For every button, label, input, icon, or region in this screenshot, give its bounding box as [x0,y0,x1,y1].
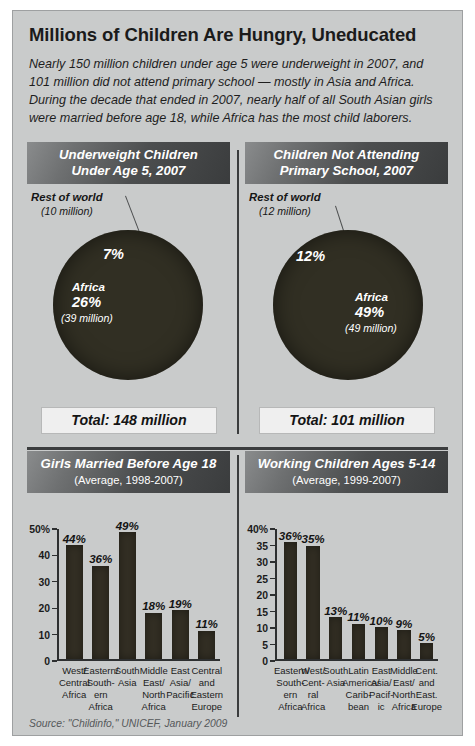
page-title: Millions of Children Are Hungry, Uneduca… [29,24,446,46]
panel-title-line1: Girls Married Before Age 18 [27,456,230,472]
panel-title-line2: Primary School, 2007 [245,163,448,179]
panel-divider-vertical-bottom [237,455,239,717]
bar-panel-row: Girls Married Before Age 18 (Average, 19… [13,451,462,727]
panel-underweight-children: Underweight Children Under Age 5, 2007 R… [27,142,230,443]
y-axis [275,529,277,661]
pie-slice-pct-rest-of-world: 12% [296,248,325,264]
y-axis-tick [52,608,57,609]
y-axis-tick-label: 35 [256,540,268,551]
panel-title-line2: Under Age 5, 2007 [27,163,230,179]
y-axis-tick [270,644,275,645]
pie-callout-label-rest-of-world: Rest of world [31,190,103,204]
panel-title-line1: Working Children Ages 5-14 [245,456,448,472]
bar-value-label: 36% [279,529,302,542]
x-axis-category-label: Cent. and East. Europe [410,665,443,714]
bar-value-label: 11% [196,617,218,630]
bar [352,624,365,660]
y-axis-tick-label: 15 [256,606,268,617]
bar-value-label: 18% [142,599,165,612]
total-box-not-attending: Total: 101 million [259,407,435,434]
bar [420,643,433,659]
header-block: Millions of Children Are Hungry, Uneduca… [13,11,462,134]
page-canvas: Millions of Children Are Hungry, Uneduca… [0,0,475,746]
plot-area: 0510152025303540%36%Eastern/ South- ern … [275,529,438,661]
panel-working-children: Working Children Ages 5-14 (Average, 199… [245,451,448,727]
y-axis-tick [52,660,57,661]
pie-slice-name-africa: Africa [355,290,388,303]
y-axis-tick-label: 0 [44,656,50,667]
panel-header-girls-married: Girls Married Before Age 18 (Average, 19… [27,451,230,493]
bar-value-label: 35% [301,532,324,545]
bar-value-label: 49% [116,519,139,532]
y-axis-tick [270,578,275,579]
plot-area: 01020304050%44%West/ Central Africa36%Ea… [57,529,220,661]
bar [172,610,189,659]
source-note: Source: "Childinfo," UNICEF, January 200… [29,718,227,729]
x-axis [57,659,220,661]
y-axis-tick [270,545,275,546]
y-axis-tick [52,634,57,635]
y-axis-tick [270,594,275,595]
panel-girls-married: Girls Married Before Age 18 (Average, 19… [27,451,230,727]
y-axis-tick-label: 30 [38,576,50,587]
y-axis-tick-label: 0 [262,656,268,667]
pie-slice-pct-africa: 49% [355,304,384,320]
bar [198,631,215,660]
bar [397,630,410,659]
y-axis-tick-label: 40% [247,524,268,535]
y-axis-tick-label: 5 [262,639,268,650]
bar-value-label: 13% [324,604,347,617]
pie-chart-underweight: Rest of world (10 million) 7% Africa 26%… [27,184,230,399]
y-axis-tick-label: 25 [256,573,268,584]
panel-not-attending-school: Children Not Attending Primary School, 2… [245,142,448,443]
pie-panel-row: Underweight Children Under Age 5, 2007 R… [13,142,462,443]
panel-title-line1: Underweight Children [27,147,230,163]
pie-slice-pct-africa: 26% [72,294,101,310]
bar-value-label: 36% [89,552,112,565]
bar [284,542,297,659]
section-divider-horizontal [27,447,448,450]
x-axis [275,659,438,661]
bar [306,546,319,660]
y-axis-tick [270,627,275,628]
header-deck: Nearly 150 million children under age 5 … [29,55,446,128]
y-axis-tick [270,611,275,612]
bar [329,617,342,659]
x-axis-category-label: Central and Eastern Europe [189,665,226,714]
y-axis-tick-label: 20 [38,603,50,614]
y-axis-tick-label: 10 [256,623,268,634]
pie-chart-not-attending: Rest of world (12 million) 12% Africa 49… [245,184,448,399]
pie-slice-value-africa: (39 million) [61,312,113,324]
bar-value-label: 10% [370,614,393,627]
y-axis-tick-label: 50% [29,524,50,535]
y-axis-tick [270,561,275,562]
infographic-frame: Millions of Children Are Hungry, Uneduca… [12,10,463,736]
panel-divider-vertical-top [237,150,239,434]
panel-title-line1: Children Not Attending [245,147,448,163]
bar [375,627,388,660]
total-box-underweight: Total: 148 million [41,407,217,434]
bar-value-label: 19% [169,597,192,610]
bar-value-label: 11% [347,610,369,623]
bar [145,613,162,660]
y-axis-tick-label: 20 [256,590,268,601]
bar-value-label: 44% [63,532,86,545]
pie-slice-pct-rest-of-world: 7% [103,246,124,262]
panel-header-not-attending: Children Not Attending Primary School, 2… [245,142,448,184]
bar-chart-girls-married: 01020304050%44%West/ Central Africa36%Ea… [27,501,230,729]
bar [119,532,136,659]
bar-value-label: 9% [396,617,413,630]
pie-callout-value-rest-of-world: (12 million) [259,205,311,217]
y-axis-tick [52,581,57,582]
panel-subtitle: (Average, 1999-2007) [245,473,448,487]
y-axis-tick [52,555,57,556]
bar-chart-working-children: 0510152025303540%36%Eastern/ South- ern … [245,501,448,729]
pie-slice-name-africa: Africa [72,280,105,293]
pie-leader-line [335,206,345,233]
panel-header-working-children: Working Children Ages 5-14 (Average, 199… [245,451,448,493]
bar [66,545,83,659]
panel-subtitle: (Average, 1998-2007) [27,473,230,487]
y-axis-tick [52,528,57,529]
panel-header-underweight: Underweight Children Under Age 5, 2007 [27,142,230,184]
bar [92,566,109,660]
